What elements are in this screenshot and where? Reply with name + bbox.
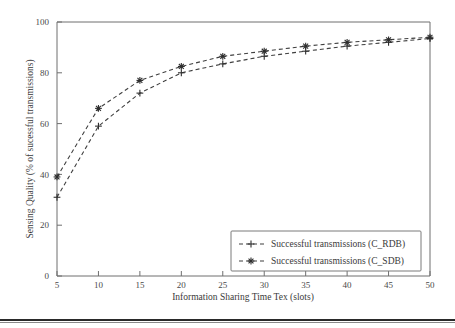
- footer-rule-thin: [0, 322, 455, 323]
- marker-asterisk-core: [180, 65, 183, 68]
- marker-asterisk-core: [346, 41, 349, 44]
- x-tick-label: 50: [426, 280, 436, 290]
- marker-asterisk-core: [387, 38, 390, 41]
- marker-asterisk-core: [263, 50, 266, 53]
- figure-container: 020406080100 5101520253035404550 Informa…: [0, 0, 455, 328]
- legend-entry-label: Successful transmissions (C_SDB): [271, 256, 404, 267]
- y-tick-label: 80: [40, 68, 50, 78]
- marker-asterisk-core: [56, 176, 59, 179]
- x-axis-ticks: 5101520253035404550: [55, 271, 435, 290]
- marker-asterisk-core: [221, 55, 224, 58]
- marker-asterisk-core: [139, 79, 142, 82]
- x-tick-label: 25: [218, 280, 228, 290]
- y-axis-ticks: 020406080100: [36, 17, 63, 281]
- data-series-layer: [54, 34, 434, 201]
- chart-plot-area: 020406080100 5101520253035404550 Informa…: [0, 0, 455, 318]
- x-tick-label: 20: [177, 280, 187, 290]
- x-tick-label: 35: [301, 280, 311, 290]
- marker-asterisk-core: [304, 45, 307, 48]
- y-tick-label: 20: [40, 220, 50, 230]
- series-rdb: [54, 35, 434, 201]
- chart-legend[interactable]: Successful transmissions (C_RDB)Successf…: [231, 231, 421, 271]
- x-tick-label: 45: [384, 280, 394, 290]
- x-tick-label: 30: [260, 280, 270, 290]
- marker-asterisk-core: [429, 36, 432, 39]
- x-tick-label: 5: [55, 280, 60, 290]
- marker-asterisk-core: [250, 260, 253, 263]
- y-tick-label: 0: [45, 271, 50, 281]
- marker-asterisk-core: [97, 107, 100, 110]
- series-line-path: [57, 39, 430, 198]
- x-tick-label: 10: [94, 280, 104, 290]
- x-tick-label: 40: [343, 280, 353, 290]
- footer-rule-thick: [0, 319, 455, 321]
- x-axis-title: Information Sharing Time Tex (slots): [172, 292, 314, 303]
- series-sdb: [54, 34, 434, 181]
- y-tick-label: 40: [40, 170, 50, 180]
- y-tick-label: 60: [40, 119, 50, 129]
- x-tick-label: 15: [135, 280, 145, 290]
- y-tick-label: 100: [36, 17, 50, 27]
- legend-entry-label: Successful transmissions (C_RDB): [271, 239, 405, 250]
- series-line-path: [57, 37, 430, 177]
- y-axis-title: Sensing Quality (% of sucessful transmis…: [25, 59, 36, 238]
